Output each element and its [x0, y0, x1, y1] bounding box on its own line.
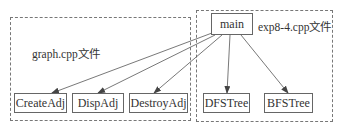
- node-bfstree: BFSTree: [264, 93, 313, 113]
- edge-main-bfstree: [241, 35, 288, 93]
- node-main: main: [211, 13, 253, 35]
- edge-main-dispadj: [98, 35, 215, 93]
- node-createadj: CreateAdj: [14, 93, 67, 113]
- node-destroyadj: DestroyAdj: [129, 93, 188, 113]
- edges-layer: [0, 0, 340, 135]
- edge-main-createadj: [52, 33, 212, 93]
- node-dispadj: DispAdj: [72, 93, 124, 113]
- edge-main-destroyadj: [154, 35, 222, 93]
- node-dfstree: DFSTree: [203, 93, 250, 113]
- edge-main-dfstree: [227, 35, 230, 93]
